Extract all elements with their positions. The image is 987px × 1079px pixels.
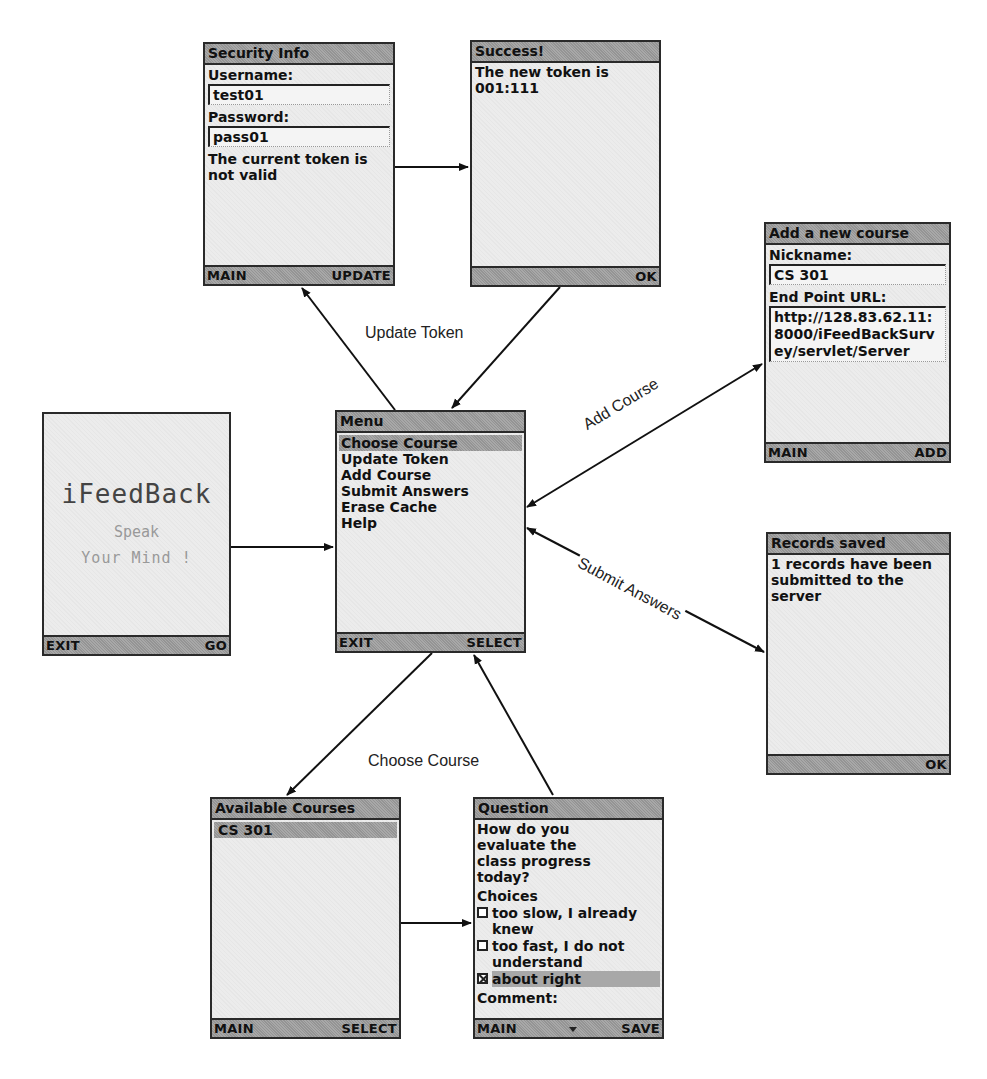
arrow-menu-to-security bbox=[302, 288, 395, 410]
password-field[interactable]: pass01 bbox=[208, 126, 390, 147]
arrow-success-to-menu bbox=[452, 287, 560, 408]
ok-softkey[interactable]: OK bbox=[925, 756, 947, 773]
main-softkey[interactable]: MAIN bbox=[477, 1020, 517, 1037]
add-course-screen: Add a new course Nickname: CS 301 End Po… bbox=[764, 222, 951, 463]
arrow-menu-to-courses bbox=[287, 653, 432, 795]
add-softkey[interactable]: ADD bbox=[914, 444, 947, 461]
endpoint-url-field[interactable]: http://128.83.62.11:8000/iFeedBackSurvey… bbox=[769, 306, 946, 362]
checkbox-unchecked-icon[interactable] bbox=[477, 907, 488, 918]
edge-label-submit-answers: Submit Answers bbox=[573, 553, 686, 625]
edge-label-update-token: Update Token bbox=[363, 324, 465, 342]
menu-item-choose-course[interactable]: Choose Course bbox=[339, 435, 522, 451]
choice-label: too fast, I do not understand bbox=[492, 938, 660, 970]
save-softkey[interactable]: SAVE bbox=[621, 1020, 660, 1037]
scroll-down-icon[interactable] bbox=[569, 1027, 577, 1032]
ok-softkey[interactable]: OK bbox=[635, 268, 657, 285]
new-token-message: The new token is 001:111 bbox=[475, 64, 615, 96]
menu-item-update-token[interactable]: Update Token bbox=[339, 451, 522, 467]
menu-item-help[interactable]: Help bbox=[339, 515, 522, 531]
token-status-message: The current token is not valid bbox=[208, 151, 390, 183]
select-softkey[interactable]: SELECT bbox=[466, 634, 522, 651]
password-label: Password: bbox=[208, 109, 390, 125]
menu-item-submit-answers[interactable]: Submit Answers bbox=[339, 483, 522, 499]
screen-title: Success! bbox=[472, 42, 659, 63]
exit-softkey[interactable]: EXIT bbox=[339, 634, 373, 651]
go-softkey[interactable]: GO bbox=[205, 637, 227, 654]
username-field[interactable]: test01 bbox=[208, 84, 390, 105]
edge-label-choose-course: Choose Course bbox=[366, 752, 481, 770]
choice-too-fast[interactable]: too fast, I do not understand bbox=[477, 938, 660, 970]
main-softkey[interactable]: MAIN bbox=[207, 267, 247, 284]
comment-label: Comment: bbox=[477, 990, 660, 1006]
menu-item-erase-cache[interactable]: Erase Cache bbox=[339, 499, 522, 515]
endpoint-url-label: End Point URL: bbox=[769, 289, 946, 305]
question-prompt: How do you evaluate the class progress t… bbox=[477, 821, 617, 885]
arrow-question-to-menu bbox=[474, 655, 553, 795]
checkbox-checked-icon[interactable] bbox=[477, 973, 488, 984]
menu-screen: Menu Choose Course Update Token Add Cour… bbox=[335, 410, 526, 653]
main-softkey[interactable]: MAIN bbox=[768, 444, 808, 461]
menu-item-add-course[interactable]: Add Course bbox=[339, 467, 522, 483]
select-softkey[interactable]: SELECT bbox=[341, 1020, 397, 1037]
update-softkey[interactable]: UPDATE bbox=[332, 267, 391, 284]
screen-title: Records saved bbox=[768, 534, 949, 555]
question-screen: Question How do you evaluate the class p… bbox=[473, 797, 664, 1039]
records-submitted-message: 1 records have been submitted to the ser… bbox=[771, 556, 946, 604]
choice-label: too slow, I already knew bbox=[492, 905, 660, 937]
screen-title: Menu bbox=[337, 412, 524, 433]
security-info-screen: Security Info Username: test01 Password:… bbox=[203, 42, 395, 286]
choice-label: about right bbox=[492, 971, 660, 987]
choice-about-right[interactable]: about right bbox=[477, 971, 660, 987]
course-list-item[interactable]: CS 301 bbox=[214, 822, 397, 838]
app-name-logo: iFeedBack bbox=[62, 486, 212, 502]
edge-label-add-course: Add Course bbox=[578, 374, 663, 435]
checkbox-unchecked-icon[interactable] bbox=[477, 940, 488, 951]
screen-title: Add a new course bbox=[766, 224, 949, 245]
tagline-line-1: Speak bbox=[114, 524, 159, 540]
success-screen: Success! The new token is 001:111 OK bbox=[470, 40, 661, 287]
username-label: Username: bbox=[208, 67, 390, 83]
screen-title: Security Info bbox=[205, 44, 393, 65]
tagline-line-2: Your Mind ! bbox=[81, 550, 191, 566]
exit-softkey[interactable]: EXIT bbox=[46, 637, 80, 654]
available-courses-screen: Available Courses CS 301 MAIN SELECT bbox=[210, 797, 401, 1039]
screen-title: Available Courses bbox=[212, 799, 399, 820]
records-saved-screen: Records saved 1 records have been submit… bbox=[766, 532, 951, 775]
choice-too-slow[interactable]: too slow, I already knew bbox=[477, 905, 660, 937]
choices-label: Choices bbox=[477, 888, 660, 904]
nickname-label: Nickname: bbox=[769, 247, 946, 263]
splash-screen: iFeedBack Speak Your Mind ! EXIT GO bbox=[42, 412, 231, 656]
main-softkey[interactable]: MAIN bbox=[214, 1020, 254, 1037]
screen-title: Question bbox=[475, 799, 662, 820]
nickname-field[interactable]: CS 301 bbox=[769, 264, 946, 285]
